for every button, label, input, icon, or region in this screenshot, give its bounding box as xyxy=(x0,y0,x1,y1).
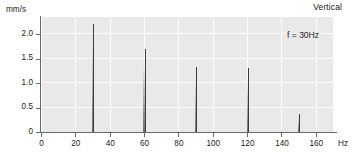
spectrum-chart: Vertical f = 30Hz mm/s Hz 00.51.01.52.0 … xyxy=(0,0,354,162)
y-axis-tick: 2.0 xyxy=(36,34,40,35)
peak-spike xyxy=(93,24,94,132)
peak-spike xyxy=(248,68,249,132)
x-axis-tick-label: 140 xyxy=(275,139,289,148)
y-axis-tick: 1.0 xyxy=(36,83,40,84)
x-axis-tick: 40 xyxy=(110,133,111,137)
y-axis-tick-label: 0 xyxy=(28,127,33,136)
x-axis-line xyxy=(40,132,337,133)
x-axis-tick-label: 20 xyxy=(71,139,80,148)
x-axis-tick: 20 xyxy=(75,133,76,137)
x-axis-tick-label: 0 xyxy=(39,139,44,148)
x-axis-tick-label: 100 xyxy=(206,139,220,148)
x-axis-unit-label: Hz xyxy=(338,139,348,148)
peak-spike xyxy=(145,49,146,132)
plot-area: f = 30Hz xyxy=(41,17,333,132)
frequency-annotation: f = 30Hz xyxy=(287,30,319,40)
y-axis-tick: 0.5 xyxy=(36,108,40,109)
x-axis-tick: 80 xyxy=(178,133,179,137)
x-axis-tick-label: 40 xyxy=(106,139,115,148)
x-axis-tick: 160 xyxy=(316,133,317,137)
x-axis-tick: 60 xyxy=(144,133,145,137)
y-axis-tick: 0 xyxy=(36,132,40,133)
y-axis-tick-label: 2.0 xyxy=(22,29,33,38)
peak-spike xyxy=(196,67,197,132)
peak-spike xyxy=(299,114,300,132)
x-axis-tick: 140 xyxy=(281,133,282,137)
x-axis-tick-label: 80 xyxy=(174,139,183,148)
y-axis-line xyxy=(40,16,41,133)
y-axis-tick-label: 0.5 xyxy=(22,102,33,111)
x-axis-tick: 100 xyxy=(213,133,214,137)
y-axis-unit-label: mm/s xyxy=(6,5,26,14)
x-axis-tick: 0 xyxy=(41,133,42,137)
chart-title: Vertical xyxy=(313,2,342,12)
x-axis-tick-label: 120 xyxy=(241,139,255,148)
y-axis-tick: 1.5 xyxy=(36,59,40,60)
x-axis-tick-label: 160 xyxy=(309,139,323,148)
x-axis-tick: 120 xyxy=(247,133,248,137)
y-axis-tick-label: 1.5 xyxy=(22,53,33,62)
x-axis-tick-label: 60 xyxy=(140,139,149,148)
y-axis-tick-label: 1.0 xyxy=(22,78,33,87)
